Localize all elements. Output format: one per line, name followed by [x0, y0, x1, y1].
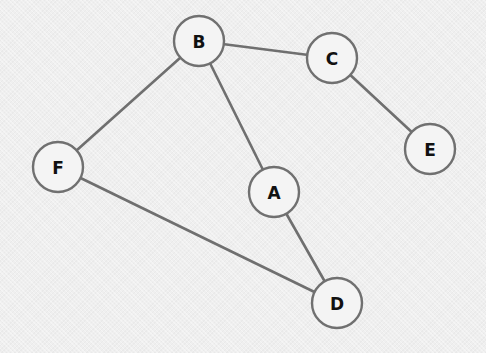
- node-c: C: [307, 33, 357, 83]
- node-label: B: [193, 32, 206, 52]
- node-label: A: [267, 183, 281, 203]
- edge-b-f: [58, 41, 199, 167]
- node-f: F: [33, 142, 83, 192]
- node-label: F: [52, 158, 64, 178]
- node-label: C: [326, 49, 338, 69]
- node-b: B: [174, 16, 224, 66]
- node-e: E: [405, 124, 455, 174]
- node-label: E: [424, 140, 436, 160]
- node-d: D: [312, 278, 362, 328]
- nodes-layer: BCEFAD: [33, 16, 455, 328]
- node-a: A: [249, 167, 299, 217]
- node-label: D: [330, 294, 344, 314]
- edges-layer: [58, 41, 430, 303]
- graph-diagram: BCEFAD: [0, 0, 486, 353]
